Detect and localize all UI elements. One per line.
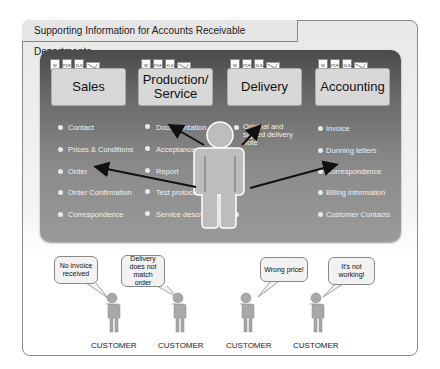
arrow-to-order xyxy=(97,167,196,187)
arrow-to-documentation xyxy=(171,126,204,145)
person-and-arrows xyxy=(0,0,440,369)
central-person-icon xyxy=(194,122,244,228)
customer-label: CUSTOMER xyxy=(91,341,137,350)
speech-bubble-4: It's not working! xyxy=(328,257,375,285)
customer-4-icon xyxy=(310,293,324,332)
customer-label: CUSTOMER xyxy=(293,341,339,350)
customer-3-icon xyxy=(240,293,254,332)
customer-2-icon xyxy=(172,293,186,332)
customer-label: CUSTOMER xyxy=(226,341,272,350)
customer-1-icon xyxy=(106,293,120,332)
arrow-to-delivery-note xyxy=(242,127,259,145)
customer-label: CUSTOMER xyxy=(158,341,204,350)
speech-bubble-3: Wrong price! xyxy=(260,257,308,282)
arrow-to-correspondence xyxy=(250,165,335,188)
speech-bubble-1: No invoice received xyxy=(54,256,98,284)
speech-bubble-2: Delivery does not match order xyxy=(121,255,165,287)
